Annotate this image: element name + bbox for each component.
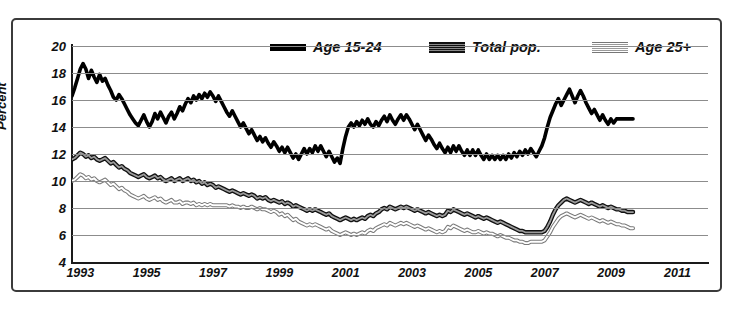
x-tick-label: 1993: [66, 266, 94, 280]
gridline: [72, 154, 708, 155]
x-axis-line: [71, 262, 709, 264]
y-tick-label: 18: [52, 66, 66, 81]
chart-figure: Age 15-24 Total pop. Age 25+ Percent 201…: [0, 0, 741, 310]
gridlines: [72, 46, 708, 262]
gridline: [72, 46, 708, 47]
x-tick-label: 2011: [664, 266, 691, 280]
gridline: [72, 181, 708, 182]
gridline: [72, 100, 708, 101]
y-tick-label: 14: [52, 120, 66, 135]
y-tick-label: 10: [52, 174, 66, 189]
y-axis-ticks: 201816141210864: [22, 0, 66, 310]
x-axis-ticks: 1993199519971999200120032005200720092011: [0, 266, 741, 290]
x-tick-label: 2007: [531, 266, 559, 280]
x-tick-label: 1997: [199, 266, 227, 280]
y-tick-label: 6: [59, 228, 66, 243]
gridline: [72, 73, 708, 74]
x-tick-label: 1999: [265, 266, 293, 280]
x-tick-label: 2005: [465, 266, 493, 280]
y-tick-label: 16: [52, 93, 66, 108]
gridline: [72, 235, 708, 236]
plot-area: [72, 46, 708, 262]
y-axis-title: Percent: [0, 82, 9, 130]
y-tick-label: 8: [59, 201, 66, 216]
gridline: [72, 208, 708, 209]
x-tick-label: 1995: [133, 266, 161, 280]
y-tick-label: 12: [52, 147, 66, 162]
x-tick-label: 2003: [398, 266, 426, 280]
x-tick-label: 2009: [597, 266, 625, 280]
y-tick-label: 20: [52, 39, 66, 54]
x-tick-label: 2001: [332, 266, 360, 280]
gridline: [72, 127, 708, 128]
